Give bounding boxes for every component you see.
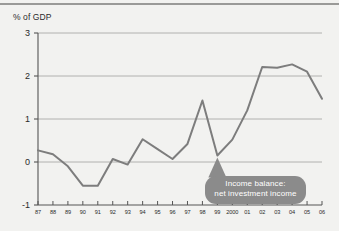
y-axis-tick-label: -1 [10,200,30,210]
y-axis-tick-label: 2 [10,71,30,81]
data-series-line [38,64,322,185]
x-axis-tick-label: 96 [170,209,176,215]
callout-pointer-icon [208,158,226,178]
x-axis-tick-label: 87 [35,209,41,215]
x-axis-tick-label: 01 [244,209,250,215]
x-axis-tick-label: 97 [184,209,190,215]
x-axis-tick-label: 93 [125,209,131,215]
x-axis-tick-label: 99 [214,209,220,215]
x-axis-tick-label: 89 [65,209,71,215]
x-axis-tick-label: 06 [319,209,325,215]
chart-figure: % of GDP 3210-1 878889909192939495969798… [0,0,339,231]
x-axis-tick-label: 04 [289,209,295,215]
x-axis-tick-label: 88 [50,209,56,215]
callout-line-2: net investment income [214,189,296,200]
callout-line-1: Income balance: [225,179,285,188]
x-axis-tick-label: 94 [140,209,146,215]
x-axis-tick-label: 2000 [226,209,238,215]
y-axis-tick-label: 1 [10,114,30,124]
y-axis-tick-label: 0 [10,157,30,167]
x-axis-tick-label: 05 [304,209,310,215]
series-callout-label: Income balance: net investment income [205,176,305,204]
x-axis-tick-label: 98 [199,209,205,215]
x-axis-tick-label: 02 [259,209,265,215]
x-axis-tick-label: 03 [274,209,280,215]
x-axis-tick-label: 95 [155,209,161,215]
y-axis-tick-label: 3 [10,28,30,38]
x-axis-tick-label: 90 [80,209,86,215]
x-axis-tick-label: 91 [95,209,101,215]
x-axis-tick-label: 92 [110,209,116,215]
